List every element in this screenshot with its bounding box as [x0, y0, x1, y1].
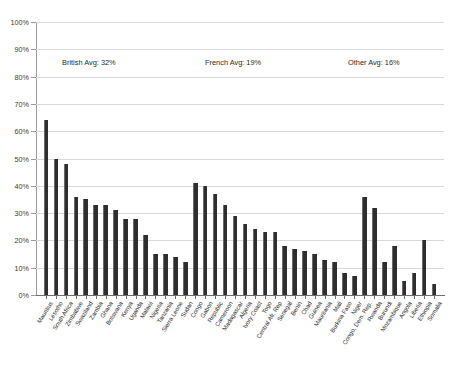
bar [153, 254, 158, 295]
x-axis-tick [374, 296, 375, 299]
bar [133, 219, 138, 295]
x-axis-tick [265, 296, 266, 299]
y-axis-tick-label: 80% [0, 73, 29, 82]
y-axis-tick-label: 100% [0, 18, 29, 27]
bar [372, 208, 377, 295]
y-axis-tick-label: 30% [0, 209, 29, 218]
y-axis-tick-label: 70% [0, 100, 29, 109]
bar [83, 199, 88, 295]
x-axis-tick [295, 296, 296, 299]
bar [292, 249, 297, 295]
bar [93, 205, 98, 295]
bar [412, 273, 417, 295]
bar [143, 235, 148, 295]
annotation-other-avg: Other Avg: 16% [348, 58, 400, 67]
bar [193, 183, 198, 295]
x-axis-tick [76, 296, 77, 299]
x-axis-tick [245, 296, 246, 299]
x-axis-tick [106, 296, 107, 299]
bar [243, 224, 248, 295]
x-axis-tick [305, 296, 306, 299]
bar [233, 216, 238, 295]
bar [302, 251, 307, 295]
bar [64, 164, 69, 295]
x-axis-tick [404, 296, 405, 299]
x-axis-tick [66, 296, 67, 299]
bar [362, 197, 367, 295]
bar [253, 229, 258, 295]
x-axis-tick [434, 296, 435, 299]
x-axis-tick [215, 296, 216, 299]
x-axis-tick [384, 296, 385, 299]
x-axis-tick [424, 296, 425, 299]
y-axis-tick-label: 20% [0, 236, 29, 245]
y-axis-tick-label: 0% [0, 291, 29, 300]
x-axis-tick [136, 296, 137, 299]
x-axis-tick [414, 296, 415, 299]
x-axis-tick [364, 296, 365, 299]
annotation-french-avg: French Avg: 19% [205, 58, 261, 67]
x-axis-tick [394, 296, 395, 299]
bar [273, 232, 278, 295]
x-axis-tick [325, 296, 326, 299]
bar [312, 254, 317, 295]
bar [213, 194, 218, 295]
x-axis-tick [56, 296, 57, 299]
bar [54, 159, 59, 296]
x-axis-tick [344, 296, 345, 299]
x-axis-tick [126, 296, 127, 299]
y-axis-tick-label: 10% [0, 264, 29, 273]
bar [282, 246, 287, 295]
x-axis-tick [116, 296, 117, 299]
y-axis-tick-label: 40% [0, 182, 29, 191]
x-axis-tick [46, 296, 47, 299]
x-axis-tick [145, 296, 146, 299]
bar [392, 246, 397, 295]
y-axis-tick-label: 50% [0, 155, 29, 164]
bar [352, 276, 357, 295]
bar [402, 281, 407, 295]
bar [163, 254, 168, 295]
y-axis-tick-label: 60% [0, 127, 29, 136]
x-axis-tick [205, 296, 206, 299]
bar [113, 210, 118, 295]
x-axis-tick [185, 296, 186, 299]
bar [332, 262, 337, 295]
x-axis-tick [225, 296, 226, 299]
bar [44, 120, 49, 295]
bar [103, 205, 108, 295]
bar [173, 257, 178, 295]
x-axis-tick [235, 296, 236, 299]
bar [223, 205, 228, 295]
x-axis-tick [275, 296, 276, 299]
bar [382, 262, 387, 295]
bar [203, 186, 208, 295]
x-axis-tick [255, 296, 256, 299]
x-axis-tick [335, 296, 336, 299]
x-axis-tick [165, 296, 166, 299]
y-axis-tick-label: 90% [0, 45, 29, 54]
x-axis-tick [86, 296, 87, 299]
bar [183, 262, 188, 295]
x-axis-tick [354, 296, 355, 299]
annotation-british-avg: British Avg: 32% [62, 58, 116, 67]
x-axis-tick [195, 296, 196, 299]
bar-chart: 100%90%80%70%60%50%40%30%20%10%0% Maurit… [0, 0, 452, 366]
bar [263, 232, 268, 295]
x-axis-tick [96, 296, 97, 299]
x-axis-tick [155, 296, 156, 299]
bar [342, 273, 347, 295]
bar [432, 284, 437, 295]
bar [422, 240, 427, 295]
x-axis-category-labels: MauritiusLesothoSouth AfricaZimbabweSwaz… [36, 300, 445, 364]
bar [322, 260, 327, 295]
x-axis-tick [315, 296, 316, 299]
bar [74, 197, 79, 295]
bar [123, 219, 128, 295]
x-axis-tick [175, 296, 176, 299]
x-axis-tick [285, 296, 286, 299]
